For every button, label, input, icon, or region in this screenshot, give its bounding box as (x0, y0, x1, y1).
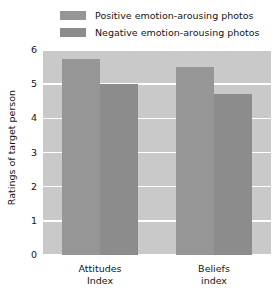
x-axis-category-line: Attitudes (79, 263, 122, 275)
legend-swatch-positive (60, 11, 86, 20)
bar (100, 84, 138, 255)
gridline (43, 49, 271, 51)
legend-item-negative: Negative emotion-arousing photos (60, 25, 275, 40)
x-axis-category-label: Beliefsindex (198, 263, 230, 286)
x-axis-category-label: AttitudesIndex (79, 263, 122, 286)
y-axis-tick-label: 3 (31, 148, 37, 158)
y-axis-tick-label: 4 (31, 113, 37, 123)
y-axis-title: Ratings of target person (4, 0, 20, 294)
y-axis-title-text: Ratings of target person (7, 89, 18, 204)
y-axis-tick-label: 6 (31, 45, 37, 55)
plot-area: 0123456AttitudesIndexBeliefsindex (43, 50, 271, 255)
y-axis-tick-label: 1 (31, 216, 37, 226)
legend-label-positive: Positive emotion-arousing photos (95, 10, 254, 21)
y-axis-tick-label: 5 (31, 79, 37, 89)
legend-label-negative: Negative emotion-arousing photos (95, 27, 260, 38)
x-axis-category-line: Beliefs (198, 263, 230, 275)
bar (214, 94, 252, 255)
y-axis-tick-label: 0 (31, 250, 37, 260)
bar (176, 67, 214, 255)
y-axis-tick-label: 2 (31, 182, 37, 192)
legend-item-positive: Positive emotion-arousing photos (60, 8, 275, 23)
chart-legend: Positive emotion-arousing photos Negativ… (60, 8, 275, 42)
bar (62, 59, 100, 255)
legend-swatch-negative (60, 28, 86, 37)
bar-chart-figure: Positive emotion-arousing photos Negativ… (0, 0, 277, 294)
x-axis-category-line: index (198, 275, 230, 287)
x-axis-category-line: Index (79, 275, 122, 287)
